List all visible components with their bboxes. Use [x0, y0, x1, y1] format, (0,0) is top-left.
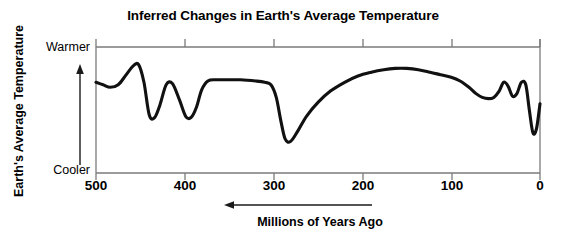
chart-canvas [0, 0, 566, 238]
plot-frame [96, 39, 540, 173]
temperature-curve [96, 63, 540, 142]
chart-figure: Inferred Changes in Earth's Average Temp… [0, 0, 566, 238]
y-axis-arrow-icon [76, 64, 84, 165]
x-tick-label-400: 400 [165, 178, 205, 193]
x-axis-title: Millions of Years Ago [140, 215, 500, 229]
x-tick-label-500: 500 [76, 178, 116, 193]
top-axis-ticks [96, 39, 540, 47]
x-tick-label-200: 200 [343, 178, 383, 193]
x-tick-label-0: 0 [520, 178, 560, 193]
bottom-axis-ticks [96, 173, 540, 180]
x-axis-arrow-icon [224, 201, 372, 208]
x-tick-label-300: 300 [254, 178, 294, 193]
x-tick-label-100: 100 [432, 178, 472, 193]
